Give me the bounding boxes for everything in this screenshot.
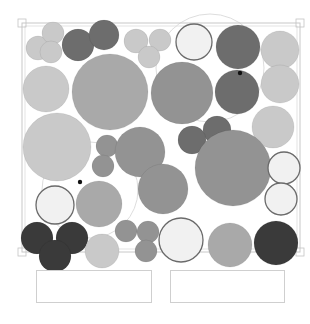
plant-canopy-p11 (215, 70, 259, 114)
plant-canopy-p10 (216, 25, 260, 69)
plant-canopy-p39 (254, 221, 298, 265)
plants-layer (21, 20, 300, 272)
plant-canopy-p20 (23, 113, 91, 181)
plant-canopy-p29 (76, 181, 122, 227)
plant-canopy-p5 (89, 20, 119, 50)
plant-canopy-p35 (137, 221, 159, 243)
plant-canopy-p22 (92, 155, 114, 177)
plant-canopy-p2 (42, 22, 64, 44)
plant-canopy-p37 (159, 218, 203, 262)
plant-canopy-p33 (85, 234, 119, 268)
plant-canopy-p24 (138, 164, 188, 214)
plant-canopy-p38 (208, 223, 252, 267)
plant-canopy-p27 (265, 183, 297, 215)
plant-canopy-p15 (72, 54, 148, 130)
plant-canopy-p16 (151, 62, 213, 124)
plant-canopy-p13 (261, 65, 299, 103)
marker-dot (78, 180, 82, 184)
left-label-box (36, 270, 152, 303)
plant-canopy-p36 (135, 240, 157, 262)
planting-plan-canvas (0, 0, 310, 324)
plant-canopy-p28 (36, 186, 74, 224)
plant-canopy-p12 (261, 31, 299, 69)
marker-dot (238, 71, 242, 75)
plant-canopy-p32 (39, 240, 71, 272)
plant-canopy-p3 (40, 41, 62, 63)
right-label-box (170, 270, 285, 303)
plant-canopy-p8 (138, 46, 160, 68)
plant-canopy-p14 (23, 66, 69, 112)
plant-canopy-p34 (115, 220, 137, 242)
plant-canopy-p26 (268, 152, 300, 184)
plant-canopy-p9 (176, 24, 212, 60)
plant-canopy-p25 (195, 130, 271, 206)
plant-canopy-p21 (96, 135, 118, 157)
